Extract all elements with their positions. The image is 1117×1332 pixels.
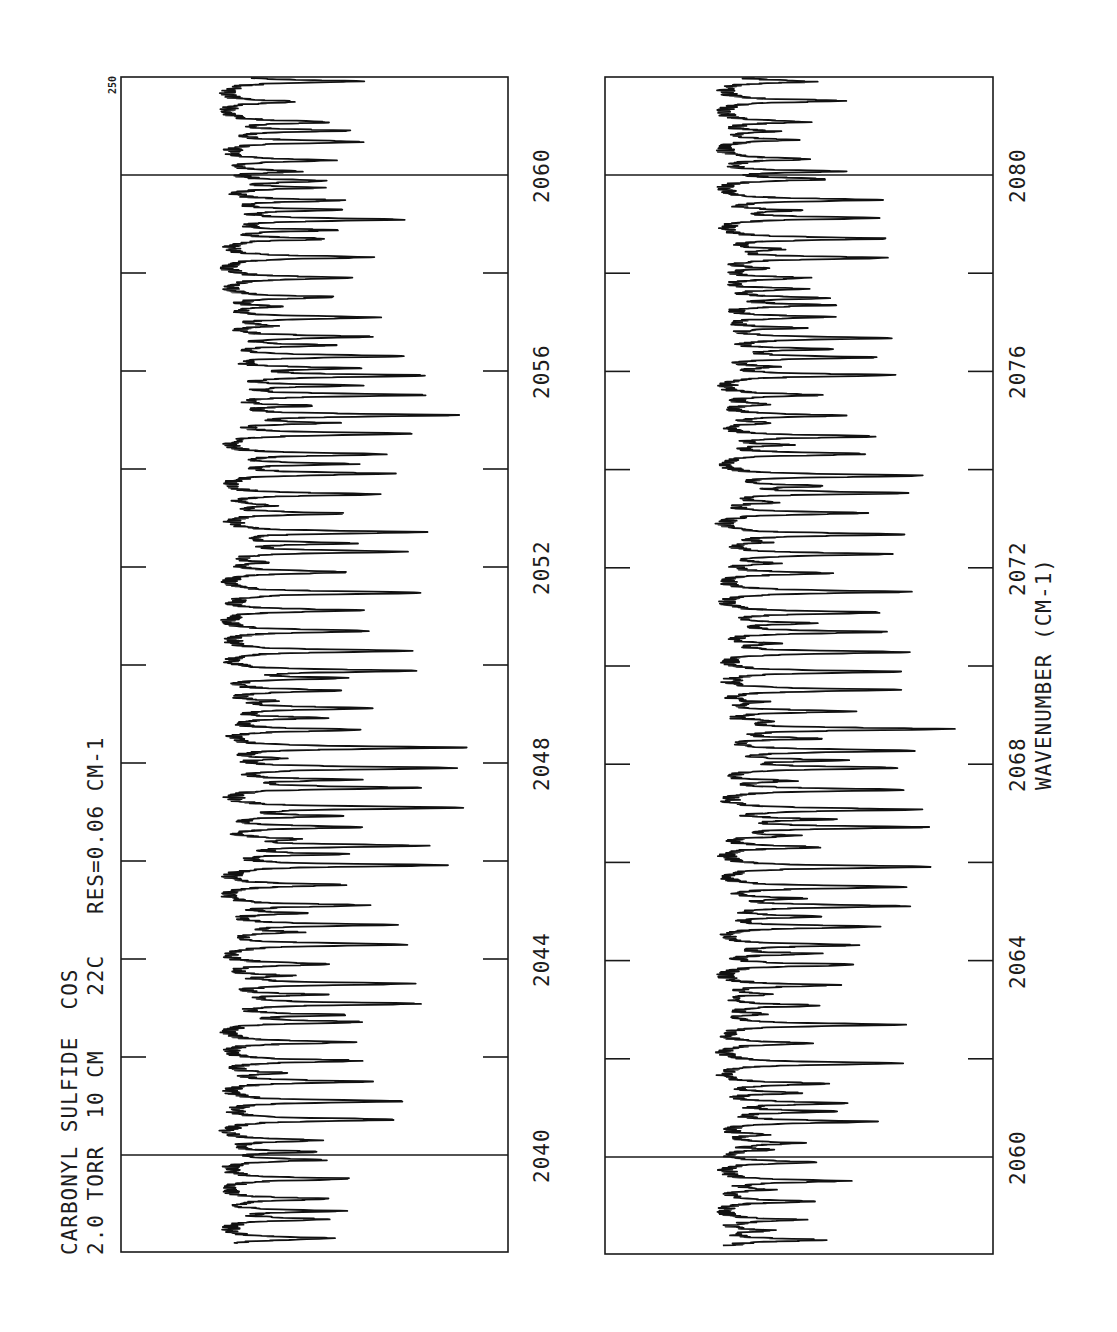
tick-label-2072: 2072	[1006, 541, 1030, 596]
panel-1-spectrum-trace	[219, 78, 466, 1243]
spectrum-panel-lower-range	[605, 77, 993, 1254]
chart-title: CARBONYL SULFIDE COS	[58, 968, 82, 1255]
tick-label-2040: 2040	[530, 1128, 554, 1183]
chart-subtitle-conditions: 2.0 TORR 10 CM 22C RES=0.06 CM-1	[84, 737, 108, 1255]
panel-2-spectrum-trace	[715, 78, 955, 1245]
panel-1-frame	[121, 77, 508, 1252]
tick-label-2068: 2068	[1006, 738, 1030, 793]
x-axis-title: WAVENUMBER (CM-1)	[1032, 558, 1056, 790]
tick-label-2080: 2080	[1006, 148, 1030, 203]
spectrum-panel-upper-range	[121, 77, 508, 1252]
tick-label-2060: 2060	[530, 148, 554, 203]
spectrum-plot	[0, 0, 1117, 1332]
tick-label-2056: 2056	[530, 344, 554, 399]
panel-2-ticks	[605, 175, 993, 1157]
panel-1-ticks	[121, 175, 508, 1155]
tick-label-2060: 2060	[1006, 1130, 1030, 1185]
tick-label-2064: 2064	[1006, 934, 1030, 989]
tick-label-2044: 2044	[530, 932, 554, 987]
panel-2-frame	[605, 77, 993, 1254]
scale-label: 250	[107, 76, 118, 94]
tick-label-2076: 2076	[1006, 345, 1030, 400]
tick-label-2048: 2048	[530, 736, 554, 791]
tick-label-2052: 2052	[530, 540, 554, 595]
